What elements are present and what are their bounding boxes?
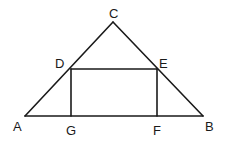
geometry-diagram: C D E A G F B bbox=[0, 0, 225, 141]
label-g: G bbox=[66, 123, 76, 138]
label-c: C bbox=[109, 6, 118, 21]
label-a: A bbox=[13, 119, 22, 134]
point-labels: C D E A G F B bbox=[13, 6, 214, 138]
rectangle-defg bbox=[71, 69, 157, 116]
label-b: B bbox=[205, 119, 214, 134]
label-e: E bbox=[159, 56, 168, 71]
label-d: D bbox=[55, 56, 64, 71]
label-f: F bbox=[153, 123, 161, 138]
